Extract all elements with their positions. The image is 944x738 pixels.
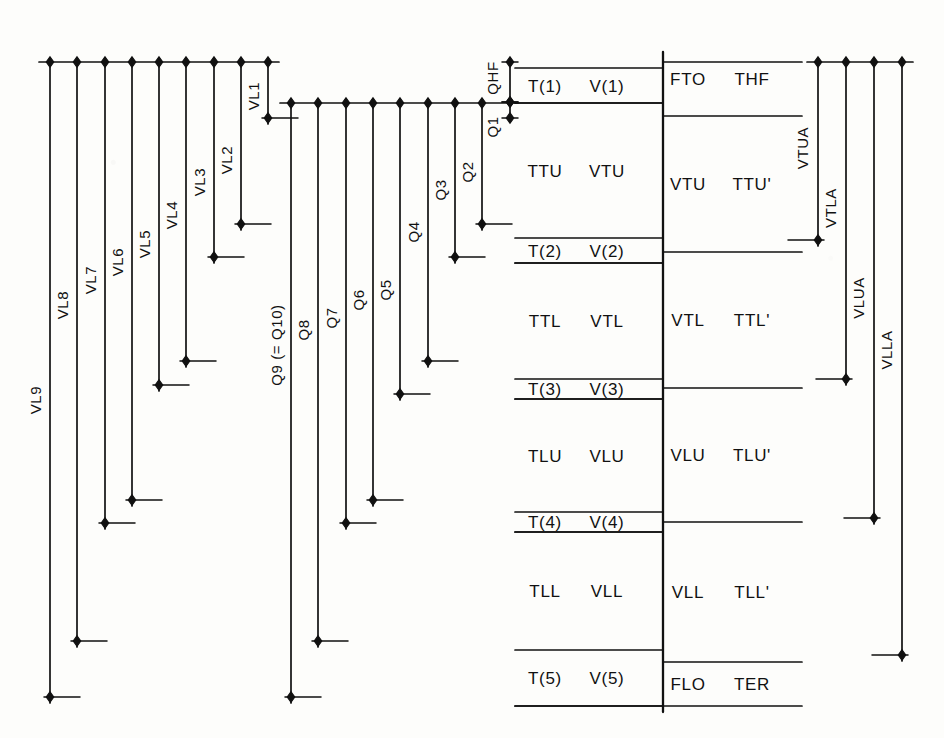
table-cell-time: T(1) — [528, 77, 562, 96]
table-cell-voltage: V(2) — [590, 242, 625, 261]
q-label: Q3 — [432, 179, 449, 200]
va-label: VTUA — [794, 127, 811, 169]
vl-label: VL7 — [82, 266, 99, 295]
table-cell-level: FTO — [670, 70, 706, 89]
vl-top-node — [73, 57, 80, 67]
table-cell-time: T(5) — [528, 669, 562, 688]
table-cell-time: TTU — [527, 162, 562, 181]
table-cell-level: VTL — [671, 311, 704, 330]
table-cell-duration: TER — [734, 675, 770, 694]
vl-label: VL5 — [136, 230, 153, 259]
vl-label: VL3 — [191, 168, 208, 197]
q-top-node — [424, 98, 431, 108]
table-cell-time: TLU — [528, 447, 562, 466]
vl-label: VL8 — [54, 291, 71, 320]
vl-label: VL9 — [27, 386, 44, 415]
q-label: Q4 — [405, 221, 422, 242]
vl-label: VL6 — [109, 248, 126, 277]
vl-top-node — [210, 57, 217, 67]
q-top-node — [478, 98, 485, 108]
va-top-node — [898, 57, 905, 67]
q-top-node — [342, 98, 349, 108]
table-cell-level: VLL — [672, 583, 704, 602]
table-cell-voltage: VLL — [591, 582, 623, 601]
level-diagram-svg: VL9VL8VL7VL6VL5VL4VL3VL2VL1Q9 (= Q10)Q8Q… — [0, 0, 944, 738]
vl-top-node — [264, 57, 271, 67]
vl-label: VL4 — [163, 201, 180, 230]
q-stack-label: QHF — [484, 61, 501, 94]
table-cell-duration: TTU' — [732, 175, 771, 194]
table-cell-voltage: V(5) — [590, 669, 625, 688]
table-cell-level: VLU — [670, 446, 705, 465]
q-top-node — [314, 98, 321, 108]
table-cell-voltage: V(4) — [590, 513, 625, 532]
table-cell-voltage: VTL — [590, 312, 623, 331]
q-label: Q8 — [295, 319, 312, 340]
table-cell-time: T(3) — [528, 380, 562, 399]
va-label: VLLA — [878, 330, 895, 369]
q-top-node — [396, 98, 403, 108]
table-cell-duration: TLU' — [733, 446, 771, 465]
va-label: VLUA — [850, 277, 867, 319]
diagram-canvas: VL9VL8VL7VL6VL5VL4VL3VL2VL1Q9 (= Q10)Q8Q… — [0, 0, 944, 738]
va-top-node — [870, 57, 877, 67]
table-cell-voltage: VLU — [589, 447, 624, 466]
table-cell-duration: THF — [734, 70, 769, 89]
table-cell-level: VTU — [670, 175, 706, 194]
q-top-node — [287, 98, 294, 108]
q-stack-label: Q1 — [484, 116, 501, 137]
table-cell-time: TLL — [529, 582, 560, 601]
table-cell-duration: TLL' — [734, 583, 769, 602]
va-top-node — [842, 57, 849, 67]
q-top-node — [451, 98, 458, 108]
vl-top-node — [155, 57, 162, 67]
q-label: Q6 — [350, 289, 367, 310]
vl-top-node — [237, 57, 244, 67]
vl-top-node — [182, 57, 189, 67]
q-label: Q9 (= Q10) — [268, 304, 285, 385]
table-cell-time: T(2) — [528, 242, 562, 261]
vl-label: VL2 — [218, 146, 235, 175]
vl-label: VL1 — [245, 82, 262, 111]
q-top-node — [369, 98, 376, 108]
table-cell-voltage: V(3) — [590, 380, 625, 399]
table-cell-level: FLO — [670, 675, 705, 694]
table-cell-voltage: VTU — [589, 162, 625, 181]
vl-top-node — [46, 57, 53, 67]
va-top-node — [814, 57, 821, 67]
q-label: Q7 — [323, 307, 340, 328]
table-cell-duration: TTL' — [734, 311, 770, 330]
vl-top-node — [128, 57, 135, 67]
q-label: Q5 — [377, 279, 394, 300]
table-cell-voltage: V(1) — [590, 77, 625, 96]
table-cell-time: T(4) — [528, 513, 562, 532]
q-label: Q2 — [459, 161, 476, 182]
vl-top-node — [101, 57, 108, 67]
va-label: VTLA — [822, 188, 839, 228]
table-cell-time: TTL — [529, 312, 561, 331]
